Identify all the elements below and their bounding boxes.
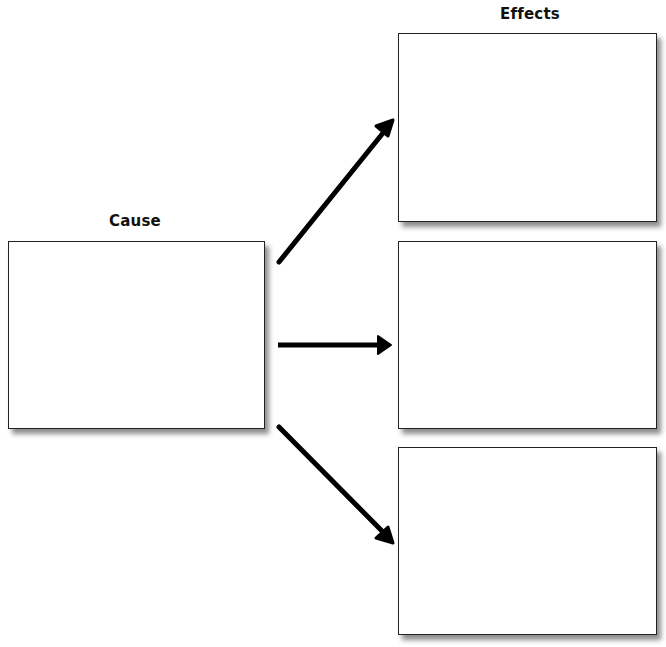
- arrow-to-effect-3: [279, 427, 393, 543]
- arrows-layer: [0, 0, 666, 647]
- arrow-to-effect-1: [279, 120, 393, 262]
- arrow-to-effect-2: [278, 336, 391, 354]
